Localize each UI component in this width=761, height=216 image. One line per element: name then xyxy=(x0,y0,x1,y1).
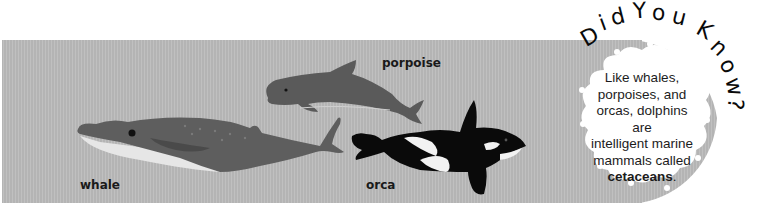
svg-text:?: ? xyxy=(722,97,748,111)
svg-text:o: o xyxy=(714,54,742,78)
svg-text:o: o xyxy=(651,0,666,25)
fact-line: intelligent marine xyxy=(586,136,698,153)
porpoise-label: porpoise xyxy=(382,56,441,70)
fact-line: Like whales, xyxy=(586,70,698,87)
highlight-suffix: . xyxy=(673,169,677,184)
fact-text: Like whales, porpoises, and orcas, dolph… xyxy=(586,70,698,186)
did-you-know-spread: D i d Y o u K n o w ? whale porpoise orc… xyxy=(0,0,761,216)
highlight-word: cetaceans xyxy=(607,169,672,184)
svg-text:d: d xyxy=(608,3,628,31)
fact-line: porpoises, and xyxy=(586,87,698,104)
fact-line: orcas, dolphins are xyxy=(586,103,698,136)
orca-label: orca xyxy=(366,178,395,192)
fact-line-last: cetaceans. xyxy=(586,169,698,186)
fact-line: mammals called xyxy=(586,153,698,170)
svg-text:w: w xyxy=(720,75,748,98)
svg-text:u: u xyxy=(670,3,690,31)
svg-text:Y: Y xyxy=(631,0,648,24)
svg-text:i: i xyxy=(595,10,609,36)
svg-text:n: n xyxy=(705,33,733,61)
svg-text:K: K xyxy=(692,15,717,44)
whale-label: whale xyxy=(80,178,120,192)
